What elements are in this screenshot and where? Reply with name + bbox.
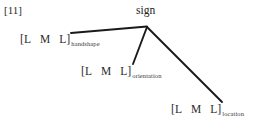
handshape-segment-2: M [40, 34, 50, 46]
orientation-branch-line [133, 27, 147, 64]
example-number: [11] [4, 5, 22, 16]
orientation-segment-2: M [101, 66, 111, 78]
sign-structure-figure: [11] sign [LML]handshape [LML]orientatio… [0, 0, 261, 123]
orientation-close-bracket: ] [127, 64, 131, 78]
location-segment-1: L [175, 104, 182, 116]
handshape-subscript-label: handshape [71, 40, 99, 47]
tier-orientation: [LML]orientation [81, 65, 161, 78]
location-close-bracket: ] [217, 102, 221, 116]
tier-location: [LML]location [171, 103, 243, 116]
location-segment-2: M [191, 104, 201, 116]
tier-handshape: [LML]handshape [20, 33, 99, 46]
orientation-segment-1: L [85, 66, 92, 78]
handshape-close-bracket: ] [66, 32, 70, 46]
tree-root-label-sign: sign [136, 5, 155, 17]
handshape-segment-1: L [24, 34, 31, 46]
location-subscript-label: location [222, 110, 244, 117]
orientation-subscript-label: orientation [132, 72, 161, 79]
